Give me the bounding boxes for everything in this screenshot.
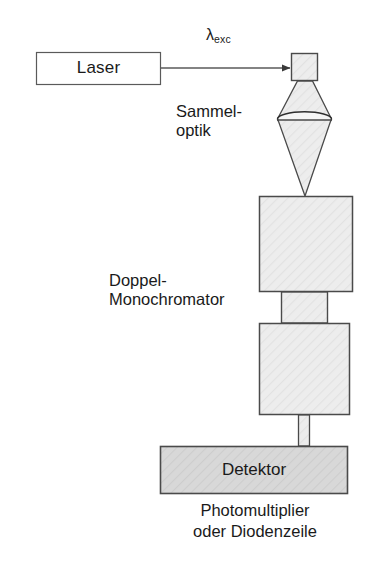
- lambda-subscript: exc: [214, 33, 231, 45]
- optical-setup-diagram: Laser λexc Sammel- optik Doppel- Monochr…: [0, 0, 365, 583]
- laser-label: Laser: [36, 52, 161, 85]
- lambda-symbol: λ: [206, 26, 214, 43]
- monochromator-stage-2: [260, 324, 350, 415]
- sample-square: [292, 54, 318, 81]
- detector-caption-line1: Photomultiplier: [160, 500, 350, 521]
- double-monochromator-label: Doppel- Monochromator: [109, 271, 225, 310]
- collection-optics-label-line2: optik: [176, 121, 242, 140]
- detector-connector: [299, 415, 310, 446]
- monochromator-stage-1: [260, 197, 353, 292]
- excitation-wavelength-label: λexc: [206, 26, 231, 45]
- collection-optics-label-line1: Sammel-: [176, 102, 242, 121]
- monochromator-connector: [282, 292, 328, 323]
- collection-optics-label: Sammel- optik: [176, 102, 242, 141]
- detector-caption: Photomultiplier oder Diodenzeile: [160, 500, 350, 542]
- double-monochromator-label-line2: Monochromator: [109, 290, 225, 309]
- laser-label-text: Laser: [77, 58, 121, 78]
- detector-caption-line2: oder Diodenzeile: [160, 521, 350, 542]
- detector-label-text: Detektor: [222, 460, 286, 480]
- lower-light-cone: [278, 120, 331, 196]
- double-monochromator-label-line1: Doppel-: [109, 271, 225, 290]
- detector-label: Detektor: [160, 446, 348, 494]
